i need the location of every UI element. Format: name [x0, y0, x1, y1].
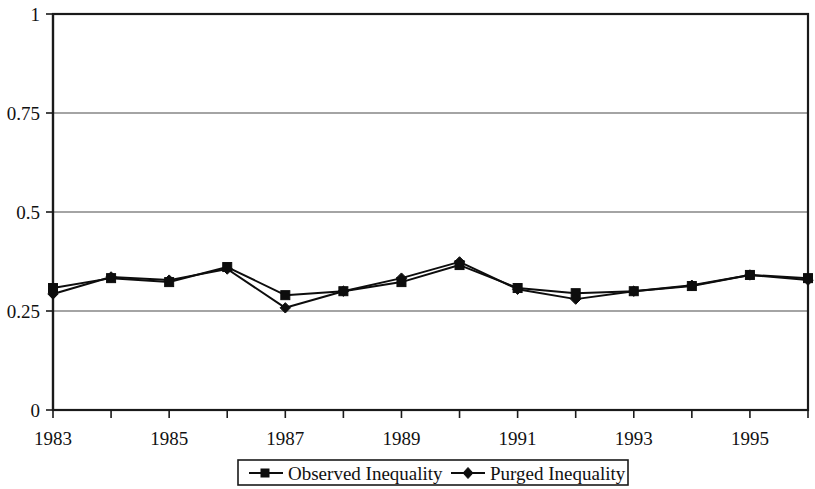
- y-tick-label-0.75: 0.75: [7, 103, 40, 124]
- y-tick-label-1: 1: [31, 4, 41, 25]
- x-tick-label-1985: 1985: [150, 428, 188, 449]
- x-tick-label-1991: 1991: [499, 428, 537, 449]
- chart-figure: 00.250.50.751 19831985198719891991199319…: [0, 0, 815, 489]
- y-tick-label-0.5: 0.5: [16, 202, 40, 223]
- legend-label-observed: Observed Inequality: [288, 463, 443, 484]
- legend-label-purged: Purged Inequality: [490, 463, 626, 484]
- x-tick-label-1993: 1993: [615, 428, 653, 449]
- inequality-line-chart: 00.250.50.751 19831985198719891991199319…: [0, 0, 815, 489]
- x-tick-label-1987: 1987: [266, 428, 304, 449]
- x-tick-label-1989: 1989: [382, 428, 420, 449]
- chart-legend: Observed Inequality Purged Inequality: [238, 460, 628, 485]
- y-tick-label-0.25: 0.25: [7, 301, 40, 322]
- y-tick-label-0: 0: [31, 400, 41, 421]
- x-tick-label-1995: 1995: [731, 428, 769, 449]
- y-axis-ticks: 00.250.50.751: [7, 4, 53, 421]
- x-tick-label-1983: 1983: [34, 428, 72, 449]
- x-axis-ticks: 1983198519871989199119931995: [34, 410, 808, 449]
- legend-marker-square-icon: [261, 469, 269, 477]
- data-point-marker: [281, 291, 290, 300]
